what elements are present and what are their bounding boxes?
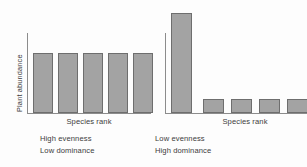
panel-low-evenness: Species rank Low evenness High dominance	[152, 0, 307, 167]
bar-left-2	[58, 53, 78, 113]
right-plot-area	[165, 13, 305, 113]
right-caption-line-1: Low evenness	[155, 133, 211, 145]
left-x-axis-label: Species rank	[27, 117, 151, 126]
bar-left-4	[108, 53, 128, 113]
left-caption-line-2: Low dominance	[40, 145, 95, 157]
left-plot-area	[27, 33, 151, 113]
rank-abundance-figure: Plant abundance Species rank High evenne…	[0, 0, 307, 167]
bar-left-1	[33, 53, 53, 113]
bar-right-3	[231, 99, 252, 113]
bar-left-3	[83, 53, 103, 113]
bar-right-2	[203, 99, 224, 113]
bar-right-1	[171, 13, 192, 113]
left-x-axis-line	[27, 113, 151, 114]
left-y-axis-label: Plant abundance	[15, 54, 24, 112]
right-x-axis-label: Species rank	[183, 117, 307, 126]
bar-right-4	[259, 99, 280, 113]
bar-left-5	[133, 53, 153, 113]
left-caption-line-1: High evenness	[40, 133, 95, 145]
bar-right-5	[287, 99, 307, 113]
right-x-axis-line	[165, 113, 307, 114]
panel-high-evenness: Plant abundance Species rank High evenne…	[0, 0, 155, 167]
left-panel-caption: High evenness Low dominance	[40, 133, 95, 156]
right-panel-caption: Low evenness High dominance	[155, 133, 211, 156]
right-caption-line-2: High dominance	[155, 145, 211, 157]
